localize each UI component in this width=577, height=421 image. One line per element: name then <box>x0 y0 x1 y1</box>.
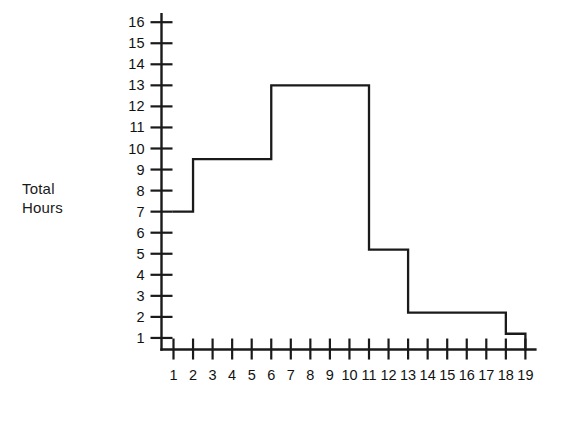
y-tick-label: 14 <box>128 56 144 72</box>
x-tick-label: 10 <box>341 367 357 383</box>
y-tick-label: 9 <box>136 162 144 178</box>
step-series-path <box>174 85 526 349</box>
x-tick-label: 1 <box>169 367 177 383</box>
x-tick-label: 3 <box>209 367 217 383</box>
x-tick-label: 7 <box>287 367 295 383</box>
y-tick-label: 15 <box>128 35 144 51</box>
y-tick-label: 6 <box>136 225 144 241</box>
y-tick-label: 7 <box>136 204 144 220</box>
x-tick-label: 9 <box>326 367 334 383</box>
x-tick-labels: 12345678910111213141516171819 <box>169 367 533 383</box>
x-tick-label: 4 <box>228 367 236 383</box>
y-tick-label: 11 <box>129 119 144 135</box>
plot-area: 12345678910111213141516 1234567891011121… <box>0 0 577 421</box>
y-tick-label: 16 <box>128 14 144 30</box>
y-tick-label: 12 <box>128 98 144 114</box>
x-tick-label: 12 <box>380 367 396 383</box>
y-tick-label: 1 <box>136 330 144 346</box>
x-tick-label: 8 <box>306 367 314 383</box>
y-tick-labels: 12345678910111213141516 <box>128 14 144 346</box>
y-tick-label: 4 <box>136 267 144 283</box>
x-tick-label: 14 <box>420 367 436 383</box>
y-tick-label: 8 <box>136 183 144 199</box>
x-tick-label: 17 <box>478 367 494 383</box>
x-tick-label: 15 <box>439 367 455 383</box>
y-tick-label: 2 <box>136 309 144 325</box>
y-tick-label: 3 <box>136 288 144 304</box>
x-tick-label: 2 <box>189 367 197 383</box>
y-tick-label: 13 <box>128 77 144 93</box>
y-tick-label: 10 <box>128 141 144 157</box>
y-tick-label: 5 <box>136 246 144 262</box>
x-tick-label: 19 <box>517 367 533 383</box>
x-tick-label: 13 <box>400 367 416 383</box>
step-chart: Total Hours 12345678910111213141516 1234… <box>0 0 577 421</box>
x-tick-label: 6 <box>267 367 275 383</box>
x-tick-label: 5 <box>248 367 256 383</box>
x-tick-label: 16 <box>459 367 475 383</box>
x-tick-label: 18 <box>498 367 514 383</box>
x-tick-label: 11 <box>361 367 376 383</box>
